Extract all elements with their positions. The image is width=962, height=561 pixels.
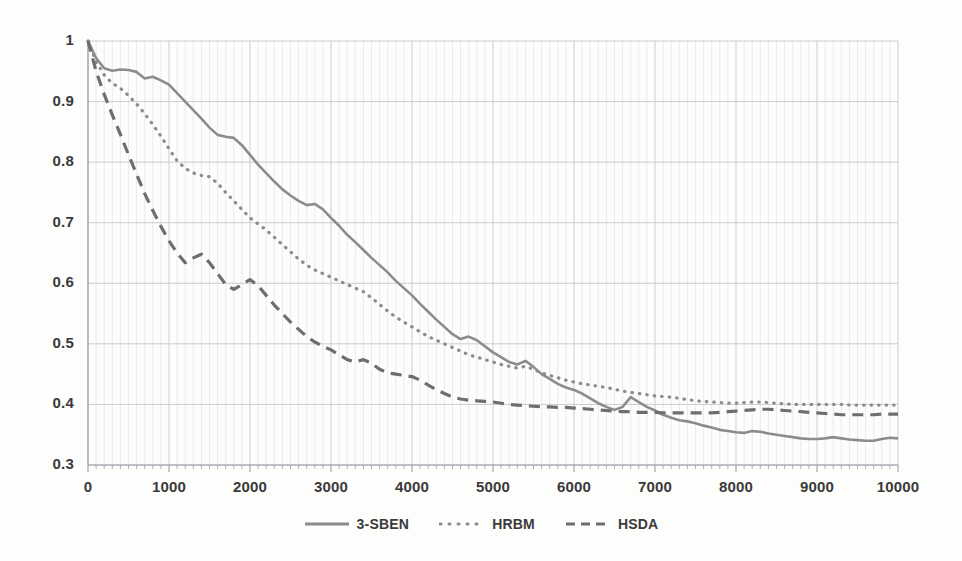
- legend-item-hrbm[interactable]: HRBM: [439, 516, 535, 532]
- y-axis-tick-label: 0.5: [53, 334, 74, 351]
- legend-swatch-dashed: [565, 518, 611, 530]
- y-axis-tick-label: 0.6: [53, 273, 74, 290]
- legend-label-hrbm: HRBM: [492, 516, 535, 532]
- chart-container: 0.30.40.50.60.70.80.91 01000200030004000…: [0, 0, 962, 561]
- legend-label-hsda: HSDA: [618, 516, 658, 532]
- y-axis-tick-label: 0.4: [53, 394, 74, 411]
- chart-legend: 3-SBEN HRBM HSDA: [0, 516, 962, 532]
- y-axis-tick-label: 0.9: [53, 92, 74, 109]
- x-axis-ticks: [88, 465, 898, 472]
- legend-item-3-sben[interactable]: 3-SBEN: [304, 516, 410, 532]
- y-axis-tick-label: 0.8: [53, 152, 74, 169]
- legend-swatch-solid: [304, 518, 350, 530]
- legend-label-3-sben: 3-SBEN: [357, 516, 410, 532]
- y-axis-tick-label: 0.3: [53, 455, 74, 472]
- x-axis-tick-label: 10000: [848, 478, 948, 495]
- line-chart-plot: [0, 0, 962, 561]
- y-axis-tick-label: 0.7: [53, 213, 74, 230]
- legend-swatch-dotted: [439, 518, 485, 530]
- legend-item-hsda[interactable]: HSDA: [565, 516, 658, 532]
- y-axis-tick-label: 1: [65, 31, 74, 48]
